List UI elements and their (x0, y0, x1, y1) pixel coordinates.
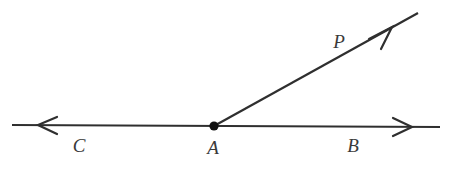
label-a: A (207, 138, 219, 157)
diagram-canvas (0, 0, 450, 173)
line-cb-stroke (12, 125, 440, 127)
label-c: C (73, 136, 86, 155)
vertex-point-a (209, 121, 218, 130)
label-p: P (333, 32, 345, 51)
geometry-figure: C A B P (0, 0, 450, 173)
label-b: B (347, 136, 359, 155)
